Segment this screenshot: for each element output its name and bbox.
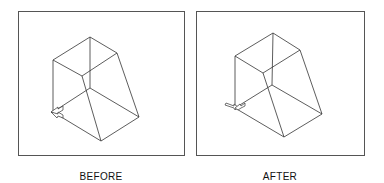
- viewport-frame: [197, 12, 365, 156]
- after-label: AFTER: [263, 171, 297, 182]
- viewport-frame: [19, 12, 185, 156]
- panel-after: AFTER: [197, 12, 365, 183]
- figure: BEFORE AFTER: [0, 0, 384, 183]
- before-label: BEFORE: [80, 171, 123, 182]
- panel-before: BEFORE: [19, 12, 185, 183]
